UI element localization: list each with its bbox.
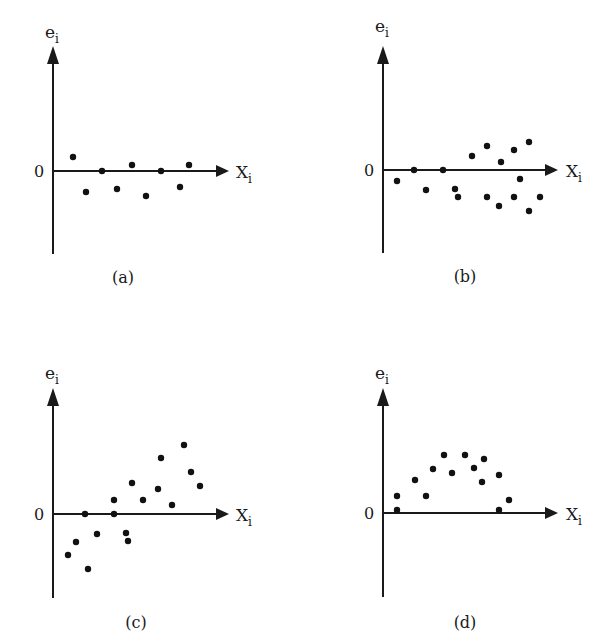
data-point: [114, 186, 120, 192]
data-point: [188, 469, 194, 475]
data-point: [481, 456, 487, 462]
panel-c: ei Xi 0 (c): [34, 363, 252, 632]
data-point: [469, 153, 475, 159]
scatter-points: [65, 442, 203, 572]
data-point: [411, 167, 417, 173]
data-point: [423, 187, 429, 193]
data-point: [111, 511, 117, 517]
x-axis-label: Xi: [236, 505, 252, 529]
panel-caption: (d): [454, 613, 477, 632]
data-point: [94, 531, 100, 537]
y-axis-label: ei: [375, 16, 389, 40]
data-point: [158, 168, 164, 174]
data-point: [158, 455, 164, 461]
data-point: [526, 139, 532, 145]
y-axis-label: ei: [45, 22, 59, 46]
data-point: [140, 497, 146, 503]
x-axis-label: Xi: [566, 161, 582, 185]
y-axis-arrow-icon: [377, 46, 389, 64]
data-point: [412, 477, 418, 483]
data-point: [129, 480, 135, 486]
data-point: [462, 452, 468, 458]
zero-label: 0: [364, 161, 374, 180]
data-point: [471, 465, 477, 471]
data-point: [394, 493, 400, 499]
data-point: [517, 176, 523, 182]
x-axis-arrow-icon: [216, 165, 229, 177]
scatter-points: [394, 452, 512, 513]
x-axis-arrow-icon: [216, 508, 229, 520]
y-axis-arrow-icon: [47, 388, 59, 406]
data-point: [449, 470, 455, 476]
data-point: [455, 194, 461, 200]
data-point: [394, 178, 400, 184]
data-point: [85, 566, 91, 572]
x-axis-label: Xi: [236, 162, 252, 186]
data-point: [526, 208, 532, 214]
data-point: [125, 538, 131, 544]
x-axis-label: Xi: [566, 504, 582, 528]
data-point: [496, 507, 502, 513]
data-point: [99, 168, 105, 174]
y-axis-arrow-icon: [377, 388, 389, 406]
data-point: [479, 479, 485, 485]
y-axis-arrow-icon: [47, 46, 59, 64]
data-point: [496, 472, 502, 478]
data-point: [441, 452, 447, 458]
x-axis-arrow-icon: [545, 164, 558, 176]
data-point: [197, 483, 203, 489]
data-point: [111, 497, 117, 503]
data-point: [440, 167, 446, 173]
panel-b: ei Xi 0 (b): [364, 16, 582, 286]
data-point: [452, 186, 458, 192]
data-point: [73, 539, 79, 545]
residual-plots-figure: ei Xi 0 (a) ei Xi 0 (b) ei Xi 0 (c) ei X…: [0, 0, 611, 640]
data-point: [511, 194, 517, 200]
data-point: [484, 194, 490, 200]
data-point: [496, 203, 502, 209]
panel-caption: (c): [125, 613, 146, 632]
data-point: [430, 466, 436, 472]
data-point: [186, 162, 192, 168]
data-point: [394, 507, 400, 513]
data-point: [129, 162, 135, 168]
data-point: [155, 486, 161, 492]
zero-label: 0: [34, 505, 44, 524]
data-point: [484, 143, 490, 149]
data-point: [506, 497, 512, 503]
data-point: [177, 184, 183, 190]
panel-caption: (b): [454, 267, 477, 286]
panel-caption: (a): [112, 268, 134, 287]
zero-label: 0: [364, 504, 374, 523]
data-point: [537, 194, 543, 200]
y-axis-label: ei: [45, 363, 59, 387]
data-point: [123, 530, 129, 536]
panel-a: ei Xi 0 (a): [34, 22, 252, 287]
scatter-points: [394, 139, 543, 214]
data-point: [82, 511, 88, 517]
data-point: [83, 189, 89, 195]
data-point: [511, 147, 517, 153]
scatter-points: [70, 154, 192, 199]
data-point: [181, 442, 187, 448]
y-axis-label: ei: [375, 363, 389, 387]
data-point: [143, 193, 149, 199]
data-point: [498, 159, 504, 165]
panel-d: ei Xi 0 (d): [364, 363, 582, 632]
zero-label: 0: [34, 162, 44, 181]
data-point: [423, 493, 429, 499]
data-point: [169, 502, 175, 508]
data-point: [70, 154, 76, 160]
x-axis-arrow-icon: [545, 507, 558, 519]
data-point: [65, 552, 71, 558]
